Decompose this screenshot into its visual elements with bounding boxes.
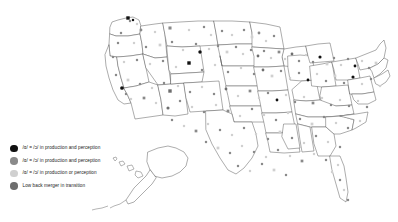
map-marker — [316, 73, 318, 75]
map-marker — [250, 49, 252, 51]
map-marker — [117, 42, 119, 44]
map-marker — [136, 59, 138, 61]
map-marker — [361, 83, 363, 85]
map-marker — [307, 79, 310, 82]
legend-label-0: /ɑ/ = /ɔ/ in production and perception — [23, 145, 101, 151]
map-marker — [343, 82, 345, 84]
map-marker — [201, 69, 203, 71]
map-marker — [166, 106, 169, 109]
map-marker — [335, 122, 337, 124]
map-marker — [151, 87, 153, 89]
map-marker — [140, 29, 143, 32]
map-marker — [213, 93, 215, 95]
map-marker — [354, 65, 357, 68]
map-marker — [225, 88, 228, 91]
map-marker — [249, 90, 252, 93]
map-marker — [347, 127, 349, 129]
map-marker — [339, 146, 341, 148]
map-marker — [189, 91, 191, 93]
map-marker — [217, 147, 220, 150]
map-marker — [210, 34, 212, 36]
dialect-map-figure: /ɑ/ = /ɔ/ in production and perception /… — [0, 0, 398, 222]
map-marker — [271, 75, 274, 78]
map-marker — [188, 29, 190, 31]
map-marker — [187, 61, 190, 64]
legend-item-0: /ɑ/ = /ɔ/ in production and perception — [10, 142, 160, 155]
map-marker — [267, 138, 269, 140]
map-marker — [325, 80, 327, 82]
map-marker — [265, 40, 267, 42]
map-marker — [261, 163, 263, 165]
map-marker — [291, 53, 294, 56]
map-marker — [255, 133, 257, 135]
map-marker — [191, 106, 193, 108]
map-marker — [221, 30, 223, 32]
map-marker — [171, 119, 173, 121]
map-marker — [195, 130, 198, 133]
legend: /ɑ/ = /ɔ/ in production and perception /… — [10, 142, 160, 192]
map-marker — [327, 141, 329, 143]
map-marker — [253, 151, 255, 153]
legend-swatch-transition — [10, 182, 18, 190]
map-marker — [145, 46, 147, 48]
map-marker — [258, 32, 261, 35]
legend-item-3: Low back merger in transition — [10, 180, 160, 193]
legend-swatch-merged-dark — [10, 145, 18, 153]
map-marker — [177, 85, 179, 87]
map-marker — [120, 32, 122, 34]
map-marker — [139, 83, 141, 85]
map-marker — [130, 98, 132, 100]
legend-label-3: Low back merger in transition — [23, 183, 86, 189]
map-marker — [251, 36, 254, 39]
map-marker — [280, 70, 282, 72]
map-marker — [298, 60, 300, 62]
map-marker — [241, 145, 243, 147]
map-marker — [227, 71, 229, 73]
map-marker — [162, 60, 164, 62]
map-marker — [287, 112, 289, 114]
map-marker — [275, 119, 277, 121]
map-marker — [136, 23, 138, 25]
map-marker — [291, 137, 293, 139]
map-marker — [273, 169, 276, 172]
map-marker — [326, 63, 329, 66]
map-marker — [182, 49, 184, 51]
map-marker — [375, 62, 378, 65]
legend-item-1: /ɑ/ = /ɔ/ in production and perception — [10, 155, 160, 168]
map-marker — [258, 97, 260, 99]
map-marker — [262, 69, 265, 72]
map-marker — [334, 75, 337, 78]
map-marker — [198, 50, 201, 53]
map-marker — [305, 54, 307, 56]
map-marker — [126, 16, 129, 19]
map-marker — [351, 75, 354, 78]
map-marker — [366, 106, 368, 108]
map-marker — [278, 51, 281, 54]
map-marker — [368, 67, 370, 69]
map-marker — [279, 131, 282, 134]
map-marker — [226, 51, 229, 54]
map-marker — [175, 66, 177, 68]
map-marker — [289, 155, 291, 157]
map-marker — [321, 97, 323, 99]
map-marker — [231, 34, 233, 36]
map-marker — [143, 97, 146, 100]
map-marker — [251, 108, 253, 110]
map-marker — [340, 64, 342, 66]
map-marker — [163, 82, 165, 84]
map-marker — [168, 26, 171, 29]
map-marker — [276, 99, 279, 102]
map-marker — [315, 135, 317, 137]
map-marker — [239, 115, 241, 117]
map-marker — [370, 78, 372, 80]
map-marker — [357, 100, 359, 102]
map-marker — [303, 96, 305, 98]
map-marker — [270, 57, 272, 59]
map-marker — [347, 58, 349, 60]
map-marker — [284, 58, 286, 60]
map-marker — [217, 45, 219, 47]
map-marker — [235, 46, 237, 48]
map-marker — [289, 77, 291, 79]
map-marker — [229, 152, 231, 154]
map-marker — [265, 156, 267, 158]
